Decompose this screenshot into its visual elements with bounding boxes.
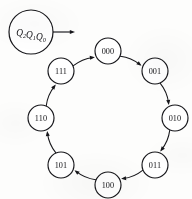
- state-diagram-figure: 000001010011100101110111 Q2Q1Q0: [0, 0, 192, 199]
- arrow-head-icon: [51, 85, 56, 90]
- state-node-110[interactable]: 110: [28, 105, 54, 131]
- state-node-label: 011: [149, 161, 161, 170]
- state-node-label: 100: [102, 181, 115, 190]
- state-node-label: 010: [169, 114, 182, 123]
- transition-edge: [160, 83, 170, 104]
- state-node-111[interactable]: 111: [48, 58, 74, 84]
- arrow-head-icon: [136, 61, 141, 66]
- right-arrow-icon: [70, 30, 75, 34]
- state-node-101[interactable]: 101: [48, 152, 74, 178]
- arrow-head-icon: [166, 100, 170, 105]
- state-node-label: 111: [55, 67, 67, 76]
- state-node-label: 000: [102, 47, 115, 56]
- transition-edge: [73, 56, 94, 66]
- transition-edge: [121, 170, 142, 180]
- state-node-011[interactable]: 011: [142, 152, 168, 178]
- transition-edge: [46, 131, 56, 152]
- arrow-head-icon: [75, 170, 80, 175]
- arrow-head-icon: [160, 146, 165, 151]
- state-node-label: 001: [149, 67, 162, 76]
- state-node-label: 101: [55, 161, 68, 170]
- transition-edge: [75, 170, 96, 180]
- transition-edge: [160, 130, 170, 151]
- state-diagram-canvas: 000001010011100101110111 Q2Q1Q0: [0, 0, 192, 199]
- state-node-010[interactable]: 010: [162, 105, 188, 131]
- state-node-000[interactable]: 000: [95, 38, 121, 64]
- arrow-head-icon: [121, 176, 126, 180]
- arrow-head-icon: [90, 56, 95, 60]
- state-node-001[interactable]: 001: [142, 58, 168, 84]
- arrow-head-icon: [46, 131, 50, 136]
- legend-group: Q2Q1Q0: [9, 10, 75, 54]
- transition-edge: [46, 85, 56, 106]
- state-node-label: 110: [35, 114, 47, 123]
- state-node-100[interactable]: 100: [95, 172, 121, 198]
- transition-edge: [120, 56, 141, 66]
- state-nodes-layer: 000001010011100101110111: [28, 38, 188, 198]
